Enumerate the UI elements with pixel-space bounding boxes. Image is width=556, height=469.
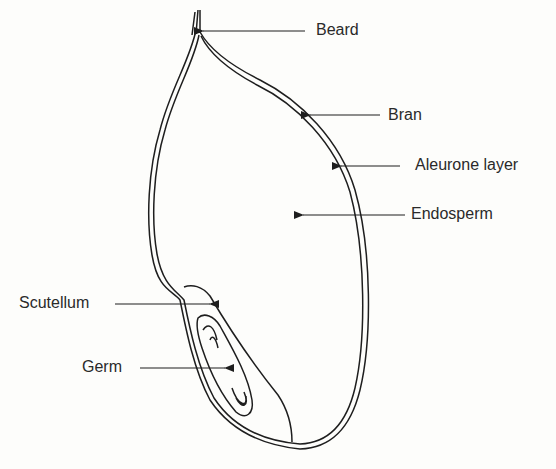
germ-outline [197, 315, 252, 415]
label-germ: Germ [82, 359, 122, 375]
label-beard: Beard [316, 22, 359, 38]
label-endosperm: Endosperm [411, 206, 493, 222]
label-aleurone-layer: Aleurone layer [415, 157, 518, 173]
wheat-kernel-diagram: Beard Bran Aleurone layer Endosperm Scut… [0, 0, 556, 469]
aleurone-outline [154, 35, 363, 444]
kernel-drawing [0, 0, 556, 469]
label-scutellum: Scutellum [19, 295, 89, 311]
label-bran: Bran [388, 107, 422, 123]
bran-outline [149, 30, 369, 449]
